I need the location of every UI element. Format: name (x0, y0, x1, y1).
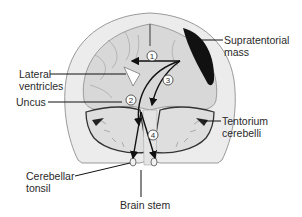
svg-text:2: 2 (129, 96, 134, 105)
svg-text:1: 1 (150, 52, 155, 61)
marker-2: 2 (126, 95, 136, 105)
label-uncus: Uncus (16, 96, 46, 108)
label-brain-stem: Brain stem (120, 199, 170, 211)
label-supratentorial-mass: Supratentorial mass (224, 34, 289, 58)
marker-3: 3 (163, 75, 173, 85)
label-tentorium-cerebelli: Tentorium cerebelli (222, 115, 268, 139)
label-line: Uncus (16, 96, 46, 108)
marker-1: 1 (147, 51, 157, 61)
label-line: Brain stem (120, 199, 170, 211)
marker-4: 4 (148, 130, 158, 140)
label-line: mass (224, 46, 289, 58)
label-lateral-ventricles: Lateral ventricles (19, 68, 63, 92)
label-line: tonsil (26, 182, 74, 194)
label-line: cerebelli (222, 127, 268, 139)
cerebellar-tonsil-left (130, 158, 136, 166)
label-line: Tentorium (222, 115, 268, 127)
label-line: Lateral (19, 68, 63, 80)
leader-cerebellar-tonsil (75, 163, 130, 176)
label-line: ventricles (19, 80, 63, 92)
label-line: Cerebellar (26, 170, 74, 182)
label-line: Supratentorial (224, 34, 289, 46)
cerebellar-tonsil-right (151, 158, 157, 166)
svg-text:3: 3 (166, 76, 171, 85)
svg-text:4: 4 (151, 131, 156, 140)
herniation-diagram: 1 2 3 4 Supratentorial mass Lateral vent… (0, 0, 302, 217)
label-cerebellar-tonsil: Cerebellar tonsil (26, 170, 74, 194)
